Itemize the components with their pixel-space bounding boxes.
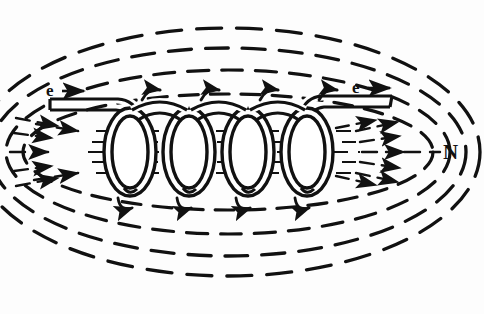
- diverging-field-arrows-right: [336, 120, 440, 185]
- field-arrow: [360, 136, 400, 142]
- solenoid-coil: [50, 96, 392, 196]
- solenoid-field-diagram: e e N: [0, 0, 484, 314]
- coil-bottom-stub: [124, 188, 314, 192]
- field-arrow: [14, 166, 52, 171]
- field-arrow: [360, 162, 400, 168]
- coil-turn: [163, 108, 215, 196]
- coil-turn: [104, 108, 156, 196]
- curved-arrow-icon: [177, 198, 191, 209]
- electron-label-right: e: [352, 79, 360, 96]
- lead-current-arrows: [62, 88, 390, 91]
- curved-arrow-icon: [236, 198, 250, 209]
- field-arrow: [336, 120, 376, 128]
- field-arrow: [336, 176, 376, 185]
- north-pole-label: N: [443, 142, 458, 163]
- electron-label-left: e: [46, 82, 54, 99]
- field-arrow: [356, 173, 398, 182]
- coil-turn: [281, 108, 333, 196]
- coil-turn: [222, 108, 274, 196]
- diagram-canvas: [0, 0, 484, 314]
